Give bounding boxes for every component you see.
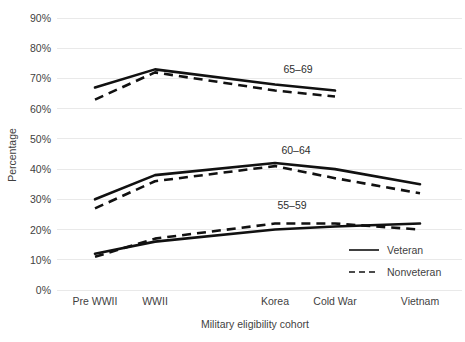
group-annotation: 55–59 (277, 199, 306, 211)
y-axis-tick-label: 0% (36, 284, 51, 296)
line-chart: 0%10%20%30%40%50%60%70%80%90% Pre WWIIWW… (0, 0, 465, 342)
y-axis-tick-label: 10% (30, 254, 51, 266)
legend: Veteran Nonveteran (349, 244, 441, 278)
y-axis-tick-label: 40% (30, 163, 51, 175)
series-line-55-59-nonveteran (95, 224, 420, 257)
x-axis-title: Military eligibility cohort (201, 318, 309, 330)
series-line-60-64-nonveteran (95, 166, 420, 208)
y-axis-tick-label: 20% (30, 224, 51, 236)
group-annotation: 60–64 (281, 144, 310, 156)
y-axis-tick-labels: 0%10%20%30%40%50%60%70%80%90% (30, 12, 51, 296)
x-axis-tick-label: Cold War (313, 295, 357, 307)
group-annotation: 65–69 (283, 63, 312, 75)
chart-canvas: 0%10%20%30%40%50%60%70%80%90% Pre WWIIWW… (0, 0, 465, 342)
y-axis-tick-label: 50% (30, 133, 51, 145)
series-lines (95, 69, 420, 256)
x-axis-tick-label: Pre WWII (73, 295, 118, 307)
y-axis-tick-label: 30% (30, 193, 51, 205)
x-axis-tick-label: WWII (142, 295, 168, 307)
y-axis-title: Percentage (6, 128, 18, 182)
series-line-55-59-veteran (95, 224, 420, 254)
y-axis-tick-label: 80% (30, 42, 51, 54)
x-axis-tick-label: Korea (261, 295, 289, 307)
legend-label-nonveteran: Nonveteran (387, 266, 441, 278)
y-axis-tick-label: 70% (30, 72, 51, 84)
y-axis-tick-label: 60% (30, 103, 51, 115)
x-axis-tick-label: Vietnam (401, 295, 440, 307)
y-axis-tick-label: 90% (30, 12, 51, 24)
legend-label-veteran: Veteran (387, 244, 423, 256)
x-axis-tick-labels: Pre WWIIWWIIKoreaCold WarVietnam (73, 295, 440, 307)
